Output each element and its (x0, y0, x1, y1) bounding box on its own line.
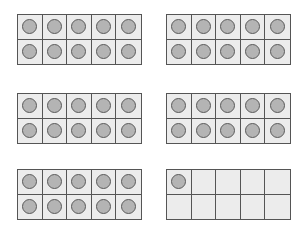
counter-circle-icon (47, 123, 62, 138)
counter-circle-icon (71, 123, 86, 138)
counter-circle-icon (22, 123, 37, 138)
frame-cell (43, 40, 68, 65)
counter-circle-icon (245, 19, 260, 34)
counter-circle-icon (47, 44, 62, 59)
frame-cell (265, 15, 290, 40)
frame-cell (216, 15, 241, 40)
counter-circle-icon (47, 98, 62, 113)
frame-cell (67, 15, 92, 40)
counter-circle-icon (196, 19, 211, 34)
counter-circle-icon (121, 44, 136, 59)
counter-circle-icon (71, 19, 86, 34)
frame-cell (67, 195, 92, 220)
ten-frame-3 (17, 93, 142, 144)
frame-cell (241, 170, 266, 195)
counter-circle-icon (196, 123, 211, 138)
frame-cell (192, 40, 217, 65)
ten-frame-2 (166, 14, 291, 65)
frame-cell (167, 195, 192, 220)
frame-cell (116, 40, 141, 65)
frame-cell (192, 15, 217, 40)
frame-cell (116, 119, 141, 144)
frame-cell (43, 94, 68, 119)
frame-cell (116, 94, 141, 119)
frame-cell (18, 94, 43, 119)
counter-circle-icon (96, 19, 111, 34)
counter-circle-icon (121, 98, 136, 113)
frame-cell (265, 170, 290, 195)
counter-circle-icon (171, 98, 186, 113)
frame-cell (116, 15, 141, 40)
counter-circle-icon (96, 174, 111, 189)
frame-cell (216, 195, 241, 220)
ten-frame-6 (166, 169, 291, 220)
counter-circle-icon (96, 98, 111, 113)
frame-cell (167, 94, 192, 119)
frame-cell (216, 170, 241, 195)
frame-cell (67, 40, 92, 65)
frame-cell (216, 40, 241, 65)
counter-circle-icon (121, 174, 136, 189)
frame-cell (192, 170, 217, 195)
frame-cell (18, 170, 43, 195)
counter-circle-icon (22, 174, 37, 189)
frame-cell (241, 94, 266, 119)
frame-cell (18, 40, 43, 65)
counter-circle-icon (220, 44, 235, 59)
counter-circle-icon (245, 44, 260, 59)
frame-cell (192, 195, 217, 220)
frame-cell (167, 170, 192, 195)
counter-circle-icon (196, 44, 211, 59)
frame-cell (92, 40, 117, 65)
counter-circle-icon (22, 44, 37, 59)
frame-cell (265, 40, 290, 65)
frame-cell (167, 15, 192, 40)
counter-circle-icon (71, 174, 86, 189)
counter-circle-icon (196, 98, 211, 113)
counter-circle-icon (171, 123, 186, 138)
ten-frame-4 (166, 93, 291, 144)
ten-frame-1 (17, 14, 142, 65)
counter-circle-icon (171, 44, 186, 59)
frame-cell (92, 119, 117, 144)
frame-cell (43, 170, 68, 195)
frame-cell (265, 195, 290, 220)
counter-circle-icon (270, 44, 285, 59)
frame-cell (92, 94, 117, 119)
frame-cell (67, 170, 92, 195)
counter-circle-icon (22, 98, 37, 113)
counter-circle-icon (121, 19, 136, 34)
frame-cell (116, 195, 141, 220)
counter-circle-icon (96, 44, 111, 59)
frame-cell (18, 119, 43, 144)
frame-cell (241, 15, 266, 40)
frame-cell (92, 195, 117, 220)
frame-cell (216, 94, 241, 119)
counter-circle-icon (47, 19, 62, 34)
counter-circle-icon (96, 199, 111, 214)
frame-cell (43, 195, 68, 220)
frame-cell (18, 15, 43, 40)
frame-cell (116, 170, 141, 195)
frame-cell (241, 195, 266, 220)
frame-cell (92, 170, 117, 195)
frame-cell (167, 40, 192, 65)
counter-circle-icon (270, 98, 285, 113)
counter-circle-icon (220, 98, 235, 113)
counter-circle-icon (270, 19, 285, 34)
frame-cell (43, 119, 68, 144)
counter-circle-icon (245, 123, 260, 138)
frame-cell (167, 119, 192, 144)
counter-circle-icon (47, 199, 62, 214)
frame-cell (192, 94, 217, 119)
counter-circle-icon (47, 174, 62, 189)
counter-circle-icon (171, 174, 186, 189)
frame-cell (67, 119, 92, 144)
frame-cell (265, 94, 290, 119)
counter-circle-icon (71, 199, 86, 214)
ten-frame-5 (17, 169, 142, 220)
frame-cell (92, 15, 117, 40)
counter-circle-icon (270, 123, 285, 138)
counter-circle-icon (220, 123, 235, 138)
counter-circle-icon (96, 123, 111, 138)
